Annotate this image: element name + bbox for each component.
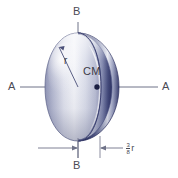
center-of-mass-dot [94,84,99,89]
dimension-fraction: 3 8 [126,142,130,156]
radius-label: r [64,56,67,66]
axis-label-a-right: A [162,81,170,92]
body-vertical-shading [45,33,119,141]
axis-label-b-top: B [73,6,81,17]
dimension-unit: r [131,143,134,153]
axis-label-a-left: A [8,81,16,92]
center-of-mass-label: CM [83,66,101,77]
hemisphere-cm-diagram: B B A A CM r 3 8 r [0,0,178,178]
dimension-denominator: 8 [126,149,130,155]
dimension-label: 3 8 r [126,142,134,156]
dimension-numerator: 3 [126,142,130,149]
dimension-arrowhead-right [100,145,106,150]
diagram-canvas [0,0,178,178]
hemisphere-body [45,33,119,141]
axis-label-b-bottom: B [73,160,81,171]
dimension-arrowhead-left [72,145,78,150]
